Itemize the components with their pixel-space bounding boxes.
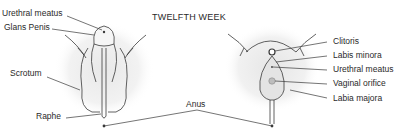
diagram-title: TWELFTH WEEK — [152, 12, 226, 22]
male-genitalia-illustration — [54, 22, 154, 127]
diagram: TWELFTH WEEK Urethral meatus Glans Penis… — [0, 0, 399, 133]
label-raphe: Raphe — [36, 111, 61, 121]
label-vaginal-orifice: Vaginal orifice — [333, 78, 386, 88]
female-genitalia-illustration — [224, 24, 320, 127]
label-clitoris: Clitoris — [333, 36, 359, 46]
label-female-urethral-meatus: Urethral meatus — [333, 64, 393, 74]
label-glans-penis: Glans Penis — [4, 22, 50, 32]
label-scrotum: Scrotum — [10, 68, 42, 78]
label-labia-minora: Labis minora — [333, 50, 382, 60]
label-anus: Anus — [186, 99, 205, 109]
label-male-urethral-meatus: Urethral meatus — [2, 8, 62, 18]
label-labia-majora: Labia majora — [333, 93, 382, 103]
